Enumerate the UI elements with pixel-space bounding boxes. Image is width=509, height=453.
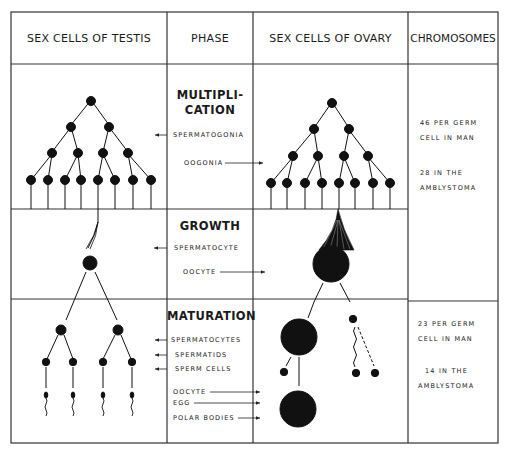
header-chromosomes: CHROMOSOMES (408, 32, 498, 44)
header-phase: PHASE (167, 32, 253, 45)
table-grid (11, 12, 498, 443)
phase-multiplication-title-2: CATION (167, 102, 253, 118)
label-egg: EGG (173, 399, 190, 407)
oocyte-growth (313, 209, 354, 302)
label-oocyte-maturation: OOCYTE (173, 388, 206, 396)
header-ovary: SEX CELLS OF OVARY (253, 32, 408, 45)
phase-maturation-title: MATURATION (167, 308, 253, 324)
phase-growth-title: GROWTH (167, 218, 253, 234)
chromosomes-haploid-amblystoma-2: AMBLYSTOMA (418, 381, 475, 391)
chromosomes-diploid-man-1: 46 PER GERM (420, 118, 477, 128)
phase-multiplication-title-1: MULTIPLI- (167, 87, 253, 103)
label-spermatocyte: SPERMATOCYTE (174, 244, 239, 252)
chromosomes-diploid-man-2: CELL IN MAN (420, 133, 475, 143)
chromosomes-diploid-amblystoma-1: 28 IN THE (420, 168, 463, 178)
ovary-multiplication-tree (267, 99, 395, 210)
label-sperm-cells: SPERM CELLS (175, 365, 231, 373)
label-spermatogonia: SPERMATOGONIA (173, 131, 244, 139)
spermatocyte-growth (66, 209, 117, 320)
chromosomes-haploid-man-2: CELL IN MAN (418, 334, 473, 344)
header-testis: SEX CELLS OF TESTIS (11, 32, 167, 45)
label-oogonia: OOGONIA (184, 159, 223, 167)
label-spermatocytes: SPERMATOCYTES (171, 336, 241, 344)
label-polar-bodies: POLAR BODIES (173, 414, 235, 422)
testis-maturation-tree (42, 325, 135, 416)
ovary-maturation (280, 302, 379, 427)
chromosomes-diploid-amblystoma-2: AMBLYSTOMA (420, 183, 477, 193)
testis-multiplication-tree (27, 97, 156, 210)
chromosomes-haploid-man-1: 23 PER GERM (418, 319, 475, 329)
label-oocyte-growth: OOCYTE (183, 268, 216, 276)
label-spermatids: SPERMATIDS (175, 351, 227, 359)
chromosomes-haploid-amblystoma-1: 14 IN THE (425, 366, 468, 376)
label-arrows (154, 135, 265, 418)
